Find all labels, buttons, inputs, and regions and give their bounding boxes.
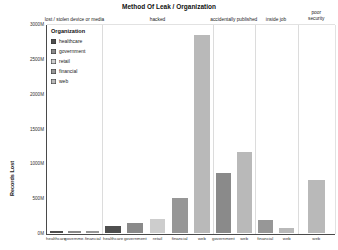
y-tick-label: 500M [14,196,44,201]
legend-swatch-icon [51,59,56,64]
y-tick-label: 0M [14,231,44,236]
legend-item-label: retail [59,58,70,64]
y-tick-label: 1000M [14,161,44,166]
y-tick-label: 2000M [14,92,44,97]
facet-separator [213,25,214,234]
facet-strip-label: poor security [304,10,328,21]
legend-item-government: government [51,46,85,56]
bar-lost-stolen-device-or-media-government [68,231,81,234]
bar-accidentally-published-web [237,152,252,233]
bar-hacked-web [194,35,210,234]
legend-swatch-icon [51,49,56,54]
plot-top-border [47,24,335,25]
legend-item-web: web [51,76,85,86]
legend-items: healthcaregovernmentretailfinancialweb [51,36,85,86]
legend: Organization healthcaregovernmentretailf… [51,28,85,86]
y-tick-label: 1500M [14,127,44,132]
y-axis-line [46,25,47,235]
y-tick-label: 3000M [14,22,44,27]
bar-hacked-retail [150,219,166,233]
legend-item-label: healthcare [59,38,82,44]
legend-swatch-icon [51,79,56,84]
facet-separator [298,25,299,234]
facet-separator [255,25,256,234]
bar-inside-job-financial [258,220,273,234]
legend-item-healthcare: healthcare [51,36,85,46]
bar-lost-stolen-device-or-media-healthcare [50,231,63,234]
facet-strip-label: lost / stolen device or media [0,17,175,23]
bar-poor-security-web [308,180,325,234]
y-tick-label: 2500M [14,57,44,62]
facet-strip-label: inside job [176,17,338,23]
chart-title: Method Of Leak / Organization [0,3,338,10]
plot-right-border [335,25,336,234]
bar-hacked-financial [172,198,188,234]
x-tick-label: web [299,237,333,241]
legend-item-label: government [59,48,85,54]
legend-title: Organization [51,28,85,34]
bar-inside-job-web [279,228,294,233]
legend-item-retail: retail [51,56,85,66]
bar-hacked-government [127,223,143,233]
legend-swatch-icon [51,39,56,44]
bar-accidentally-published-government [216,173,231,233]
legend-item-label: financial [59,68,77,74]
facet-separator [102,25,103,234]
legend-item-label: web [59,78,68,84]
legend-item-financial: financial [51,66,85,76]
facet-strip-label: accidentally published [134,17,334,23]
bar-hacked-healthcare [105,226,121,234]
bar-lost-stolen-device-or-media-financial [86,231,99,233]
legend-swatch-icon [51,69,56,74]
facet-strip-label: hacked [58,17,258,23]
x-axis-line [46,234,335,235]
